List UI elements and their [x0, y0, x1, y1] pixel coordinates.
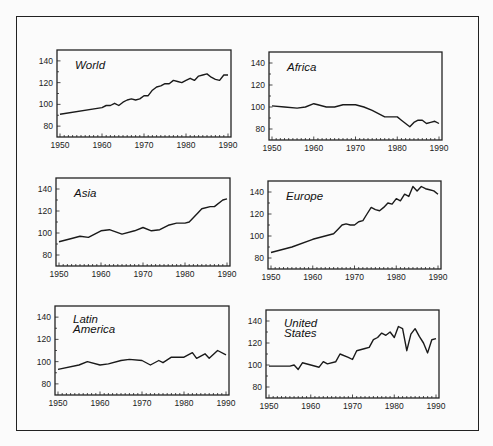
x-tick-label: 1970: [134, 269, 153, 279]
x-tick-label: 1980: [387, 272, 406, 282]
x-tick-label: 1960: [91, 398, 110, 408]
y-tick-label: 100: [248, 360, 262, 370]
panel-europe: 1950196019701980199080100120140Europe: [250, 181, 448, 282]
x-tick-label: 1950: [262, 272, 281, 282]
x-tick-label: 1970: [346, 143, 365, 153]
y-tick-label: 120: [38, 206, 52, 216]
x-tick-label: 1990: [219, 140, 238, 150]
x-tick-label: 1950: [51, 140, 70, 150]
series-line: [59, 199, 227, 242]
y-tick-label: 80: [253, 382, 263, 392]
series-line: [272, 104, 439, 127]
y-tick-label: 100: [250, 231, 264, 241]
x-tick-label: 1970: [345, 272, 364, 282]
x-tick-label: 1980: [388, 143, 407, 153]
y-tick-label: 140: [37, 312, 51, 322]
x-tick-label: 1990: [429, 272, 448, 282]
y-tick-label: 100: [251, 102, 265, 112]
series-line: [60, 74, 228, 114]
x-tick-label: 1980: [177, 140, 196, 150]
x-tick-label: 1950: [49, 398, 68, 408]
x-tick-label: 1970: [133, 398, 152, 408]
y-tick-label: 80: [44, 121, 54, 131]
y-tick-label: 100: [38, 228, 52, 238]
panel-title: States: [284, 327, 317, 339]
x-tick-label: 1950: [260, 401, 279, 411]
y-tick-label: 100: [39, 99, 53, 109]
panel-latin-america: 1950196019701980199080100120140LatinAmer…: [37, 306, 236, 408]
panel-asia: 1950196019701980199080100120140Asia: [38, 178, 237, 279]
y-tick-label: 80: [43, 250, 53, 260]
y-tick-label: 140: [39, 56, 53, 66]
panel-world: 1950196019701980199080100120140World: [39, 50, 238, 150]
panel-title: Europe: [286, 190, 323, 202]
x-tick-label: 1960: [301, 401, 320, 411]
panel-africa: 1950196019701980199080100120140Africa: [251, 52, 449, 153]
y-tick-label: 140: [248, 316, 262, 326]
x-tick-label: 1990: [430, 143, 449, 153]
y-tick-label: 140: [250, 187, 264, 197]
y-tick-label: 100: [37, 357, 51, 367]
x-tick-label: 1960: [92, 269, 111, 279]
x-tick-label: 1960: [303, 272, 322, 282]
x-tick-label: 1950: [50, 269, 69, 279]
panel-title: World: [75, 59, 106, 71]
y-tick-label: 120: [251, 80, 265, 90]
x-tick-label: 1970: [135, 140, 154, 150]
y-tick-label: 120: [248, 338, 262, 348]
y-tick-label: 80: [255, 253, 265, 263]
y-tick-label: 120: [39, 78, 53, 88]
x-tick-label: 1990: [217, 398, 236, 408]
panel-title: America: [72, 323, 115, 335]
y-tick-label: 80: [256, 124, 266, 134]
y-tick-label: 140: [251, 58, 265, 68]
panel-title: Africa: [286, 61, 316, 73]
y-tick-label: 80: [42, 379, 52, 389]
x-tick-label: 1980: [176, 269, 195, 279]
panel-title: Asia: [73, 187, 96, 199]
x-tick-label: 1950: [263, 143, 282, 153]
x-tick-label: 1980: [175, 398, 194, 408]
y-tick-label: 140: [38, 184, 52, 194]
y-tick-label: 120: [250, 209, 264, 219]
y-tick-label: 120: [37, 334, 51, 344]
small-multiples-chart: 1950196019701980199080100120140World1950…: [0, 0, 493, 446]
x-tick-label: 1990: [427, 401, 446, 411]
x-tick-label: 1960: [304, 143, 323, 153]
panel-united-states: 1950196019701980199080100120140UnitedSta…: [248, 310, 446, 411]
x-tick-label: 1970: [343, 401, 362, 411]
x-tick-label: 1980: [385, 401, 404, 411]
x-tick-label: 1990: [218, 269, 237, 279]
series-line: [58, 351, 226, 370]
x-tick-label: 1960: [93, 140, 112, 150]
